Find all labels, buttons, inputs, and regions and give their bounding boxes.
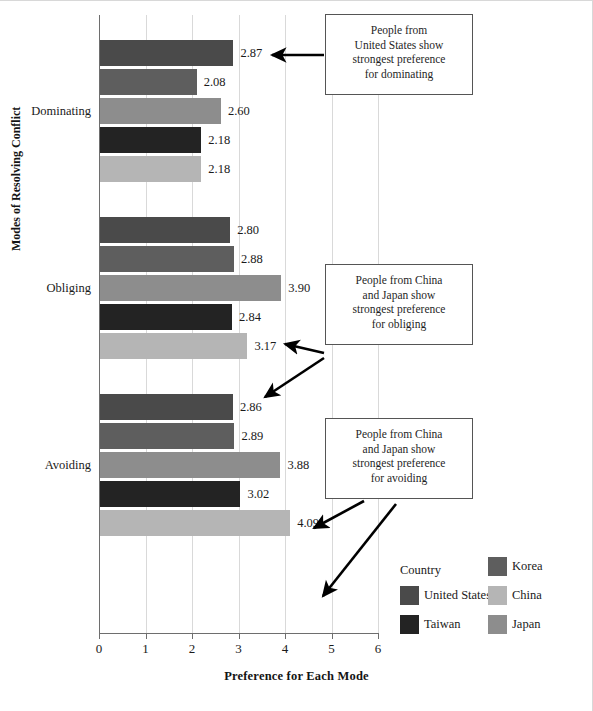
- bar: [100, 69, 197, 95]
- bar-value-label: 2.87: [240, 40, 262, 66]
- bar-value-label: 2.18: [208, 156, 230, 182]
- x-tick: [99, 633, 100, 639]
- legend-swatch: [488, 586, 507, 605]
- bar: [100, 304, 232, 330]
- bar-value-label: 3.88: [287, 452, 309, 478]
- category-label: Obliging: [47, 281, 91, 295]
- legend-swatch: [400, 615, 419, 634]
- annotation-obliging: People from Chinaand Japan showstrongest…: [325, 264, 473, 345]
- legend-label: China: [512, 586, 542, 605]
- legend-title: Country: [400, 563, 441, 578]
- x-tick-label: 5: [328, 641, 335, 657]
- x-tick: [285, 633, 286, 639]
- category-label: Avoiding: [45, 458, 91, 472]
- annotation-line: strongest preference: [332, 302, 466, 317]
- x-tick-label: 4: [282, 641, 289, 657]
- legend-label: United States: [424, 586, 491, 605]
- bar-value-label: 3.90: [288, 275, 310, 301]
- annotation-line: and Japan show: [332, 288, 466, 303]
- bar: [100, 217, 230, 243]
- y-axis-title: Modes of Resolving Conflict: [9, 107, 24, 251]
- bar: [100, 452, 280, 478]
- bar: [100, 98, 221, 124]
- legend-label: Taiwan: [424, 615, 461, 634]
- bar-value-label: 2.89: [241, 423, 263, 449]
- bar-value-label: 3.17: [254, 333, 276, 359]
- x-axis-title: Preference for Each Mode: [0, 669, 593, 684]
- x-tick-label: 1: [142, 641, 149, 657]
- bar-value-label: 4.09: [297, 510, 319, 536]
- x-tick-label: 3: [235, 641, 242, 657]
- chart-page: Modes of Resolving Conflict 2.872.082.60…: [0, 0, 593, 711]
- annotation-line: People from China: [332, 273, 466, 288]
- bar: [100, 40, 233, 66]
- x-tick: [332, 633, 333, 639]
- bar-value-label: 2.60: [228, 98, 250, 124]
- legend-swatch: [488, 615, 507, 634]
- annotation-line: for obliging: [332, 317, 466, 332]
- x-tick-label: 6: [375, 641, 382, 657]
- bar-value-label: 2.86: [240, 394, 262, 420]
- bar: [100, 246, 234, 272]
- legend: Country United StatesTaiwanKoreaChinaJap…: [388, 553, 588, 643]
- annotation-line: People from China: [332, 427, 466, 442]
- x-tick: [239, 633, 240, 639]
- x-tick-label: 2: [189, 641, 196, 657]
- legend-swatch: [400, 586, 419, 605]
- bar-value-label: 2.88: [241, 246, 263, 272]
- annotation-avoiding: People from Chinaand Japan showstrongest…: [325, 418, 473, 499]
- annotation-line: United States show: [332, 38, 466, 53]
- bar-value-label: 2.08: [204, 69, 226, 95]
- bar-value-label: 3.02: [247, 481, 269, 507]
- bar: [100, 423, 234, 449]
- legend-label: Korea: [512, 557, 543, 576]
- legend-label: Japan: [512, 615, 540, 634]
- x-tick-label: 0: [96, 641, 103, 657]
- bar: [100, 394, 233, 420]
- bar: [100, 510, 290, 536]
- annotation-line: strongest preference: [332, 456, 466, 471]
- annotation-line: for dominating: [332, 67, 466, 82]
- x-tick: [192, 633, 193, 639]
- bar-value-label: 2.84: [239, 304, 261, 330]
- legend-swatch: [488, 557, 507, 576]
- bar: [100, 156, 201, 182]
- bar: [100, 275, 281, 301]
- annotation-dominating: People fromUnited States showstrongest p…: [325, 14, 473, 95]
- x-tick: [146, 633, 147, 639]
- bar: [100, 127, 201, 153]
- category-label: Dominating: [31, 104, 91, 118]
- annotation-line: for avoiding: [332, 471, 466, 486]
- bar-value-label: 2.18: [208, 127, 230, 153]
- bar: [100, 333, 247, 359]
- annotation-line: and Japan show: [332, 442, 466, 457]
- gridline: [285, 15, 286, 633]
- annotation-line: strongest preference: [332, 52, 466, 67]
- annotation-line: People from: [332, 23, 466, 38]
- bar-value-label: 2.80: [237, 217, 259, 243]
- bar: [100, 481, 240, 507]
- x-tick: [378, 633, 379, 639]
